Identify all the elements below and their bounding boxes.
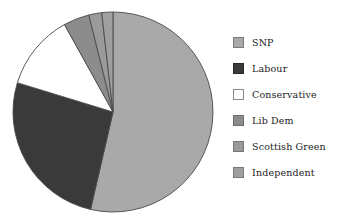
pie-slice-group <box>13 12 213 212</box>
pie-chart-figure: SNPLabourConservativeLib DemScottish Gre… <box>0 0 338 220</box>
legend-item-scottish-green[interactable]: Scottish Green <box>233 140 326 153</box>
legend-swatch-icon <box>233 115 244 126</box>
legend-swatch-icon <box>233 167 244 178</box>
legend-swatch-icon <box>233 37 244 48</box>
legend-item-independent[interactable]: Independent <box>233 166 315 179</box>
legend-item-label: Lib Dem <box>252 115 294 126</box>
legend-item-label: Scottish Green <box>252 141 326 152</box>
legend-swatch-icon <box>233 63 244 74</box>
pie-svg <box>10 6 218 216</box>
legend-item-label: SNP <box>252 37 274 48</box>
legend-item-snp[interactable]: SNP <box>233 36 274 49</box>
legend-item-labour[interactable]: Labour <box>233 62 287 75</box>
legend-item-label: Labour <box>252 63 287 74</box>
pie-plot-area <box>10 6 218 216</box>
legend-swatch-icon <box>233 89 244 100</box>
legend-item-lib-dem[interactable]: Lib Dem <box>233 114 294 127</box>
legend-swatch-icon <box>233 141 244 152</box>
legend-item-label: Conservative <box>252 89 317 100</box>
chart-legend: SNPLabourConservativeLib DemScottish Gre… <box>233 36 338 196</box>
legend-item-label: Independent <box>252 167 315 178</box>
legend-item-conservative[interactable]: Conservative <box>233 88 317 101</box>
